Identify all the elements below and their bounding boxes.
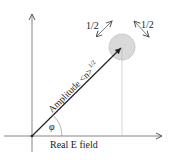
angle-label: φ xyxy=(49,121,55,132)
uncertainty-label-left: 1/2 xyxy=(86,20,99,31)
amplitude-label: Amplitude <n> xyxy=(46,66,95,114)
amplitude-vector xyxy=(32,48,121,136)
phasor-diagram: 1/2 1/2 Amplitude <n> 1/2 φ Real E field xyxy=(0,0,170,160)
x-axis-label: Real E field xyxy=(50,139,98,150)
amplitude-exponent: 1/2 xyxy=(87,59,97,69)
origin-dot xyxy=(31,135,34,138)
uncertainty-label-right: 1/2 xyxy=(141,19,154,30)
